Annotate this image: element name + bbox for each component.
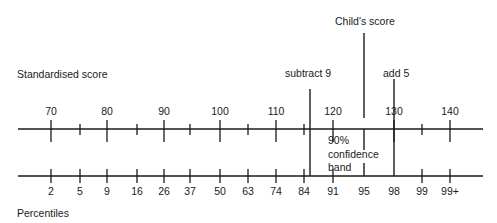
percentile-tick-label: 26 [158, 185, 170, 197]
percentile-tick-label: 99 [416, 185, 428, 197]
standardised-tick-label: 130 [385, 105, 403, 117]
band-label-line1: 90% [328, 134, 379, 148]
percentile-tick-label: 63 [242, 185, 254, 197]
percentile-tick-label: 95 [358, 185, 370, 197]
percentiles-label: Percentiles [17, 207, 69, 219]
percentile-tick-label: 37 [184, 185, 196, 197]
percentile-tick-label: 98 [388, 185, 400, 197]
band-label-line2: confidence [328, 148, 379, 162]
add-label: add 5 [383, 67, 409, 79]
percentile-tick-label: 91 [327, 185, 339, 197]
percentile-tick-label: 50 [214, 185, 226, 197]
standardised-tick-label: 90 [158, 105, 170, 117]
standardised-score-label: Standardised score [17, 68, 107, 80]
percentile-tick-label: 99+ [441, 185, 459, 197]
standardised-tick-label: 140 [441, 105, 459, 117]
percentile-tick-label: 74 [270, 185, 282, 197]
band-label-line3: band [328, 161, 379, 175]
standardised-tick-label: 110 [268, 105, 285, 117]
standardised-tick-label: 120 [324, 105, 342, 117]
percentile-tick-label: 16 [131, 185, 143, 197]
standardised-tick-label: 100 [211, 105, 229, 117]
confidence-band-label: 90% confidence band [328, 134, 379, 175]
standardised-tick-label: 70 [45, 105, 57, 117]
chart-title: Child's score [335, 15, 395, 27]
percentile-tick-label: 2 [48, 185, 54, 197]
percentile-tick-label: 9 [104, 185, 110, 197]
subtract-label: subtract 9 [285, 67, 331, 79]
percentile-tick-label: 84 [298, 185, 310, 197]
percentile-tick-label: 5 [77, 185, 83, 197]
standardised-tick-label: 80 [101, 105, 113, 117]
